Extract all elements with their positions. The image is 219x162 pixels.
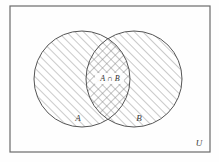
intersection-label: A ∩ B	[99, 74, 120, 83]
venn-diagram-figure: A ∩ B A B U	[0, 0, 219, 162]
intersection-label-group: A ∩ B	[95, 73, 124, 84]
universe-label: U	[196, 138, 203, 148]
venn-diagram-canvas: A ∩ B A B U	[0, 0, 219, 162]
set-b-label: B	[136, 113, 142, 123]
set-a-label: A	[74, 113, 81, 123]
